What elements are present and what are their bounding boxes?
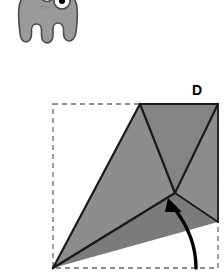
three-eyed-monster-illustration: [14, 0, 82, 48]
monster-body-group: [19, 0, 78, 43]
monster-eye-right: [54, 0, 70, 9]
origami-fold-diagram: [0, 78, 224, 279]
step-label-d: D: [192, 82, 202, 98]
monster-svg: [14, 0, 82, 48]
figure-canvas: D: [0, 0, 224, 279]
origami-svg: [0, 78, 224, 279]
